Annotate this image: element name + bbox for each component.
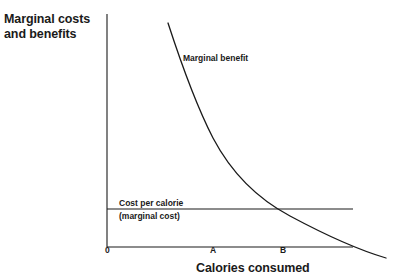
chart-screenshot: Marginal costsand benefits Calories cons… bbox=[0, 0, 397, 275]
marginal-cost-label: (marginal cost) bbox=[119, 211, 180, 221]
x-tick-a: A bbox=[210, 245, 216, 255]
marginal-benefit-label: Marginal benefit bbox=[183, 53, 248, 63]
x-tick-origin: 0 bbox=[105, 245, 110, 255]
cost-per-calorie-label: Cost per calorie bbox=[119, 198, 183, 208]
y-axis-title-line2: and benefits bbox=[4, 27, 76, 41]
x-tick-b: B bbox=[280, 245, 286, 255]
y-axis-title: Marginal costsand benefits bbox=[4, 12, 90, 42]
x-axis-title: Calories consumed bbox=[196, 261, 310, 275]
y-axis-title-line1: Marginal costs bbox=[4, 12, 90, 26]
